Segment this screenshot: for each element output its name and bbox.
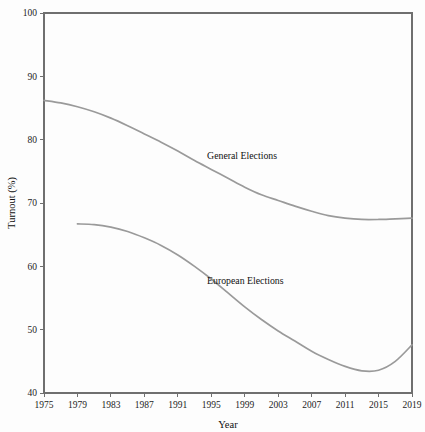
x-tick-label: 1979 — [68, 400, 87, 410]
x-tick-label: 1991 — [168, 400, 187, 410]
x-tick-label: 1983 — [101, 400, 120, 410]
x-tick-label: 2015 — [369, 400, 388, 410]
y-tick-label: 50 — [28, 325, 38, 335]
x-axis-title: Year — [218, 419, 238, 430]
x-tick-label: 1999 — [235, 400, 254, 410]
x-tick-label: 1995 — [202, 400, 221, 410]
x-tick-label: 1975 — [35, 400, 54, 410]
series-label-2: European Elections — [207, 275, 284, 286]
series-lines — [44, 100, 412, 371]
y-tick-label: 90 — [28, 72, 38, 82]
chart-page: 405060708090100 197519791983198719911995… — [0, 0, 425, 432]
x-axis-ticks: 1975197919831987199119951999200320072011… — [35, 393, 422, 410]
x-tick-label: 2011 — [336, 400, 355, 410]
y-tick-label: 70 — [28, 198, 38, 208]
y-tick-label: 80 — [28, 135, 38, 145]
y-tick-label: 100 — [23, 8, 38, 18]
turnout-line-chart: 405060708090100 197519791983198719911995… — [0, 0, 425, 432]
y-axis-ticks: 405060708090100 — [23, 8, 44, 398]
y-tick-label: 40 — [28, 388, 38, 398]
series-label-1: General Elections — [207, 150, 277, 161]
x-tick-label: 2007 — [302, 400, 321, 410]
y-axis-title: Turnout (%) — [6, 177, 18, 229]
x-tick-label: 2019 — [403, 400, 422, 410]
y-tick-label: 60 — [28, 262, 38, 272]
x-tick-label: 2003 — [269, 400, 288, 410]
series-annotations: General ElectionsEuropean Elections — [207, 150, 284, 286]
x-tick-label: 1987 — [135, 400, 154, 410]
plot-frame — [44, 13, 412, 393]
series-line-2 — [77, 224, 412, 371]
